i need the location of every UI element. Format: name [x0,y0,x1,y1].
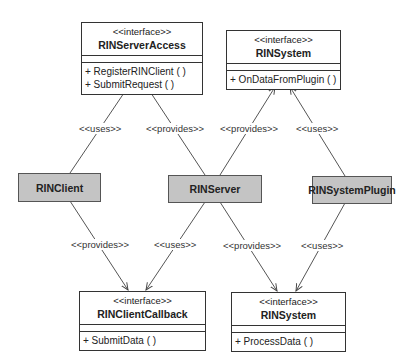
stereotype-label: <<interface>> [229,34,338,46]
relation-label: <<provides>> [145,123,205,134]
interface-name: RINSystem [229,46,338,60]
interface-header: <<interface>> RINClientCallback [80,292,205,325]
relation-label: <<uses>> [300,240,344,251]
operation: + SubmitData ( ) [83,334,202,347]
interface-rinsystem-top[interactable]: <<interface>> RINSystem + OnDataFromPlug… [226,30,341,90]
stereotype-label: <<interface>> [82,295,203,307]
operation: + RegisterRINClient ( ) [85,65,199,78]
operation: + SubmitRequest ( ) [85,78,199,91]
attributes-compartment [227,64,340,71]
operations-compartment: + ProcessData ( ) [232,333,345,351]
attributes-compartment [82,56,202,63]
operation: + ProcessData ( ) [235,335,342,348]
relation-label: <<provides>> [70,239,130,250]
operation: + OnDataFromPlugin ( ) [230,73,337,86]
interface-rinclientcallback[interactable]: <<interface>> RINClientCallback + Submit… [79,291,206,351]
interface-name: RINServerAccess [84,38,200,52]
interface-rinsystem-bottom[interactable]: <<interface>> RINSystem + ProcessData ( … [231,292,346,352]
interface-header: <<interface>> RINServerAccess [82,23,202,56]
interface-rinserveraccess[interactable]: <<interface>> RINServerAccess + Register… [81,22,203,95]
attributes-compartment [80,325,205,332]
component-rinsystemplugin[interactable]: RINSystemPlugin [312,176,392,204]
interface-name: RINClientCallback [82,307,203,321]
operations-compartment: + RegisterRINClient ( ) + SubmitRequest … [82,63,202,94]
operations-compartment: + SubmitData ( ) [80,332,205,350]
operations-compartment: + OnDataFromPlugin ( ) [227,71,340,89]
component-rinclient[interactable]: RINClient [18,173,101,202]
interface-header: <<interface>> RINSystem [227,31,340,64]
stereotype-label: <<interface>> [234,296,343,308]
stereotype-label: <<interface>> [84,26,200,38]
attributes-compartment [232,326,345,333]
interface-header: <<interface>> RINSystem [232,293,345,326]
interface-name: RINSystem [234,308,343,322]
component-rinserver[interactable]: RINServer [168,175,262,203]
relation-label: <<uses>> [153,239,197,250]
relation-label: <<provides>> [222,240,282,251]
relation-label: <<uses>> [78,123,122,134]
relation-label: <<uses>> [295,123,339,134]
relation-label: <<provides>> [219,123,279,134]
